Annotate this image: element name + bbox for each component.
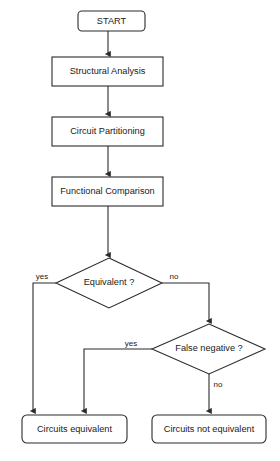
node-functional-comparison: Functional Comparison (52, 177, 163, 206)
node-circuits-equivalent: Circuits equivalent (22, 415, 127, 443)
flowchart-canvas: START Structural Analysis Circuit Partit… (0, 0, 280, 461)
false-negative-decision-label: False negative ? (175, 343, 242, 353)
functional-comparison-label: Functional Comparison (60, 186, 154, 196)
node-start: START (78, 11, 145, 31)
edge-equivalent-no (162, 283, 209, 321)
equivalent-decision-label: Equivalent ? (84, 277, 135, 287)
edge-equivalent-yes (33, 283, 56, 411)
node-circuits-not-equivalent: Circuits not equivalent (152, 415, 266, 443)
flowchart-diagram: START Structural Analysis Circuit Partit… (0, 0, 280, 461)
node-structural-analysis: Structural Analysis (52, 57, 163, 86)
structural-analysis-label: Structural Analysis (70, 66, 146, 76)
edge-label-equivalent-yes: yes (36, 272, 48, 281)
circuits-equivalent-label: Circuits equivalent (37, 424, 113, 434)
edge-label-false-negative-no: no (214, 380, 223, 389)
edge-label-equivalent-no: no (170, 272, 179, 281)
circuit-partitioning-label: Circuit Partitioning (70, 126, 145, 136)
edge-label-false-negative-yes: yes (125, 339, 137, 348)
circuits-not-equivalent-label: Circuits not equivalent (164, 424, 255, 434)
node-false-negative-decision: False negative ? (152, 324, 265, 374)
node-circuit-partitioning: Circuit Partitioning (52, 117, 163, 146)
node-equivalent-decision: Equivalent ? (56, 258, 162, 308)
start-label: START (97, 16, 127, 26)
edge-false-negative-yes (84, 349, 152, 411)
